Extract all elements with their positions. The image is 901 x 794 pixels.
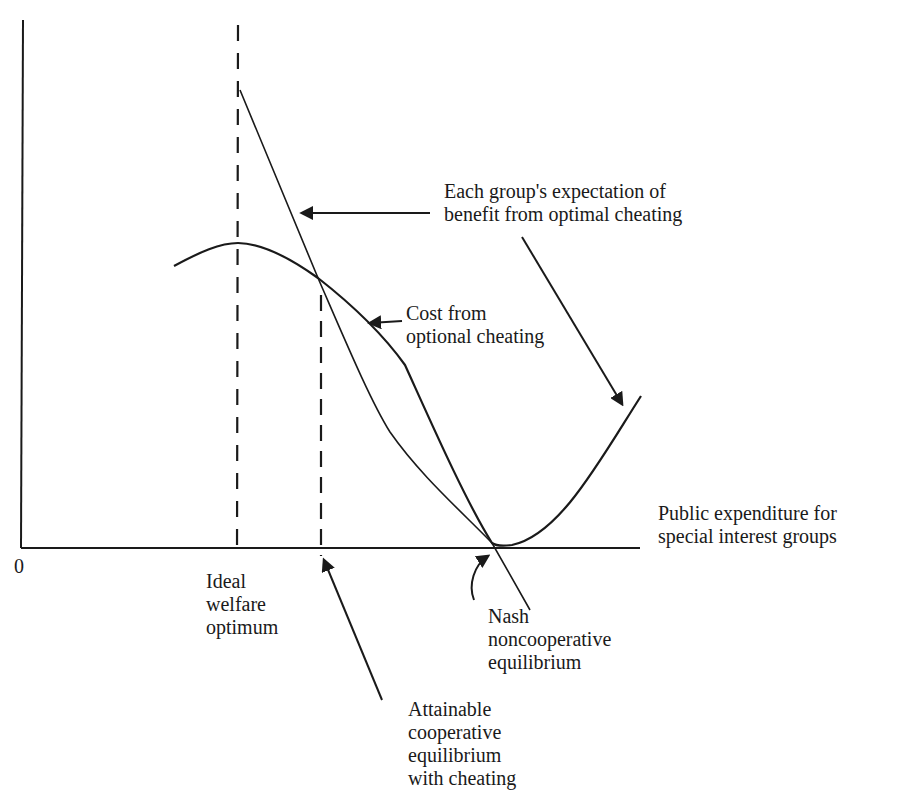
origin-label: 0 (14, 555, 24, 578)
cooperative-label-line: cooperative (408, 721, 516, 744)
ideal-welfare-label: Ideal welfare optimum (206, 570, 278, 639)
cost-annotation-label: Cost from optional cheating (406, 302, 544, 348)
cost-annotation-arrow (370, 321, 402, 323)
cost-label-line: Cost from (406, 302, 544, 325)
ideal-welfare-dashed-line (237, 25, 238, 556)
ideal-label-line: welfare (206, 593, 278, 616)
cooperative-equilibrium-label: Attainable cooperative equilibrium with … (408, 698, 516, 790)
nash-annotation-arrow (472, 556, 488, 600)
benefit-label-line: Each group's expectation of (444, 180, 682, 203)
cooperative-label-line: equilibrium (408, 744, 516, 767)
nash-label-line: equilibrium (488, 651, 611, 674)
cost-label-line: optional cheating (406, 325, 544, 348)
y-axis (21, 20, 23, 548)
cooperative-annotation-arrow (324, 560, 382, 700)
nash-equilibrium-label: Nash noncooperative equilibrium (488, 605, 611, 674)
benefit-label-line: benefit from optimal cheating (444, 203, 682, 226)
x-axis-label-line: Public expenditure for (658, 502, 837, 525)
x-axis-label: Public expenditure for special interest … (658, 502, 837, 548)
cooperative-label-line: with cheating (408, 767, 516, 790)
cooperative-label-line: Attainable (408, 698, 516, 721)
nash-label-line: noncooperative (488, 628, 611, 651)
benefit-annotation-label: Each group's expectation of benefit from… (444, 180, 682, 226)
cost-curve (174, 243, 641, 546)
ideal-label-line: Ideal (206, 570, 278, 593)
nash-label-line: Nash (488, 605, 611, 628)
diagram-canvas (0, 0, 901, 794)
x-axis-label-line: special interest groups (658, 525, 837, 548)
ideal-label-line: optimum (206, 616, 278, 639)
